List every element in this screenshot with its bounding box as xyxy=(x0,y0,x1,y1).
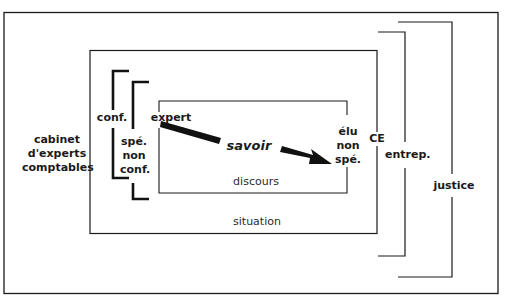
savoir-label: savoir xyxy=(220,139,278,153)
ce-label: CE xyxy=(363,132,391,146)
non-line: non xyxy=(120,149,148,163)
conf-line: conf. xyxy=(120,163,148,177)
justice-label: justice xyxy=(432,179,476,193)
spe-line: spé. xyxy=(334,153,362,167)
elu-non-spe-label: élu non spé. xyxy=(334,125,362,167)
discours-label: discours xyxy=(226,175,286,189)
situation-label: situation xyxy=(222,215,292,229)
expert-label: expert xyxy=(148,111,194,125)
cabinet-line-3: comptables xyxy=(22,161,92,175)
spe-non-conf-label: spé. non conf. xyxy=(120,135,148,177)
cabinet-line-1: cabinet xyxy=(22,133,92,147)
elu-line: élu xyxy=(334,125,362,139)
cabinet-line-2: d'experts xyxy=(22,147,92,161)
conf-label: conf. xyxy=(92,111,132,125)
cabinet-label: cabinet d'experts comptables xyxy=(22,133,92,175)
spe-line: spé. xyxy=(120,135,148,149)
entrep-label: entrep. xyxy=(385,148,429,162)
non-line: non xyxy=(334,139,362,153)
